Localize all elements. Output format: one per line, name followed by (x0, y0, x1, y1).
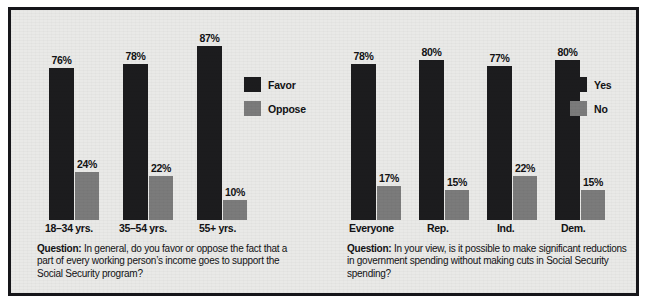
legend-swatch-oppose-icon (244, 101, 261, 116)
legend-item-yes[interactable]: Yes (570, 77, 612, 92)
bar-left-0-oppose[interactable]: 24% (75, 172, 99, 220)
bar-right-1-no[interactable]: 15% (445, 190, 469, 220)
bar-group-left-0: 76% 24% 18–34 yrs. (49, 10, 99, 220)
bar-value-right-0-yes: 78% (353, 50, 373, 62)
bar-value-left-0-oppose: 24% (77, 158, 97, 170)
bar-right-1-yes[interactable]: 80% (419, 60, 444, 220)
bar-right-2-no[interactable]: 22% (513, 176, 537, 220)
bar-value-right-2-yes: 77% (489, 52, 509, 64)
category-label-right-3: Dem. (561, 222, 585, 234)
category-label-right-2: Ind. (497, 222, 514, 234)
bar-left-0-favor[interactable]: 76% (49, 68, 74, 220)
bar-right-3-no[interactable]: 15% (581, 190, 605, 220)
legend-right: Yes No (570, 77, 612, 125)
bar-value-right-1-no: 15% (447, 176, 467, 188)
chart-panel-right: 78% 17% Everyone 80% 15% Rep. (323, 10, 636, 293)
bar-value-left-2-favor: 87% (199, 32, 219, 44)
legend-label-oppose: Oppose (268, 103, 306, 115)
bar-value-right-1-yes: 80% (421, 46, 441, 58)
legend-item-favor[interactable]: Favor (244, 77, 306, 92)
legend-item-oppose[interactable]: Oppose (244, 101, 306, 116)
bar-group-right-1: 80% 15% Rep. (419, 10, 469, 220)
bar-group-left-1: 78% 22% 35–54 yrs. (123, 10, 173, 220)
legend-label-yes: Yes (594, 79, 612, 91)
legend-label-no: No (594, 103, 608, 115)
bar-left-1-oppose[interactable]: 22% (149, 176, 173, 220)
bar-value-left-1-favor: 78% (125, 50, 145, 62)
category-label-right-0: Everyone (349, 222, 394, 234)
plot-area-left: 76% 24% 18–34 yrs. 78% 22% 35–54 yrs. (11, 10, 323, 220)
bar-group-right-0: 78% 17% Everyone (351, 10, 401, 220)
question-caption-left: Question: In general, do you favor or op… (37, 243, 305, 280)
question-prefix-right: Question: (347, 243, 391, 254)
plot-area-right: 78% 17% Everyone 80% 15% Rep. (323, 10, 636, 220)
bar-group-right-2: 77% 22% Ind. (487, 10, 537, 220)
category-label-left-0: 18–34 yrs. (45, 222, 93, 234)
bar-right-0-yes[interactable]: 78% (351, 64, 376, 220)
category-label-left-1: 35–54 yrs. (119, 222, 167, 234)
legend-swatch-no-icon (570, 101, 587, 116)
legend-left: Favor Oppose (244, 77, 306, 125)
chart-panel-left: 76% 24% 18–34 yrs. 78% 22% 35–54 yrs. (11, 10, 323, 293)
bar-value-right-3-no: 15% (583, 176, 603, 188)
chart-frame: 76% 24% 18–34 yrs. 78% 22% 35–54 yrs. (8, 7, 639, 296)
question-caption-right: Question: In your view, is it possible t… (347, 243, 627, 280)
bar-right-0-no[interactable]: 17% (377, 186, 401, 220)
bar-group-left-2: 87% 10% 55+ yrs. (197, 10, 247, 220)
category-label-right-1: Rep. (427, 222, 449, 234)
bar-left-1-favor[interactable]: 78% (123, 64, 148, 220)
legend-swatch-favor-icon (244, 77, 261, 92)
legend-swatch-yes-icon (570, 77, 587, 92)
category-label-left-2: 55+ yrs. (199, 222, 236, 234)
bar-value-right-0-no: 17% (379, 172, 399, 184)
legend-label-favor: Favor (268, 79, 296, 91)
question-prefix-left: Question: (37, 243, 81, 254)
bar-left-2-favor[interactable]: 87% (197, 46, 222, 220)
bar-right-2-yes[interactable]: 77% (487, 66, 512, 220)
bar-value-left-0-favor: 76% (51, 54, 71, 66)
bar-value-left-1-oppose: 22% (151, 162, 171, 174)
bar-value-right-2-no: 22% (515, 162, 535, 174)
bar-left-2-oppose[interactable]: 10% (223, 200, 247, 220)
figure-canvas: 76% 24% 18–34 yrs. 78% 22% 35–54 yrs. (0, 0, 647, 305)
legend-item-no[interactable]: No (570, 101, 612, 116)
bar-value-left-2-oppose: 10% (225, 186, 245, 198)
bar-value-right-3-yes: 80% (557, 46, 577, 58)
